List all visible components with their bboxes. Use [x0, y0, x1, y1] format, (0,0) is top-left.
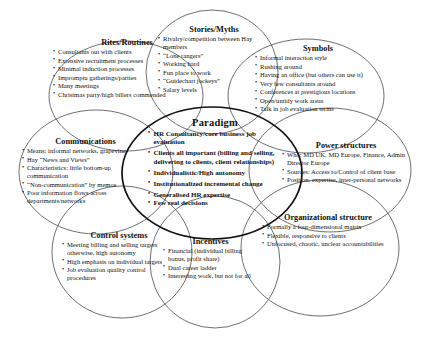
petal-title-stories-myths: Stories/Myths: [158, 25, 270, 34]
list-item: Characteristics: little bottom-up commun…: [22, 164, 149, 180]
petal-list-power-structures: Who: MD UK, MD Europe, Finance, Admin Di…: [282, 151, 410, 184]
list-item: Poor information flows across department…: [22, 189, 149, 205]
list-item: Means: informal networks, grapevine: [22, 147, 149, 155]
petal-list-communications: Means: informal networks, grapevine Hay …: [22, 147, 149, 205]
list-item: Rushing around: [255, 63, 381, 71]
petal-title-symbols: Symbols: [255, 44, 381, 53]
list-item: Institutionalized incremental change: [148, 180, 282, 188]
petal-title-power-structures: Power structures: [282, 141, 410, 150]
list-item: Informal interaction style: [255, 54, 381, 62]
petal-organizational-structure: Organizational structure Formally a four…: [262, 213, 394, 249]
list-item: High emphasis on individual targets: [62, 258, 176, 266]
petal-communications: Communications Means: informal networks,…: [22, 137, 149, 206]
petal-control-systems: Control systems Meeting billing and sell…: [62, 231, 176, 283]
list-item: Conferences at prestigious locations: [255, 88, 381, 96]
petal-power-structures: Power structures Who: MD UK, MD Europe, …: [282, 141, 410, 185]
list-item: “Lone rangers”: [158, 52, 270, 60]
list-item: Formally a four-dimensional matrix: [262, 223, 394, 231]
list-item: Talk in job evaluation terms: [255, 105, 381, 113]
list-item: Generalised HR expertise: [148, 191, 282, 199]
list-item: Rivalry/competition between Hay members: [158, 35, 270, 51]
list-item: Individualistic/High autonomy: [148, 169, 282, 177]
list-item: Salary levels: [158, 86, 270, 94]
center-list-paradigm: HR Consultancy/core business job evaluat…: [148, 130, 282, 208]
petal-list-symbols: Informal interaction style Rushing aroun…: [255, 54, 381, 113]
center-title-paradigm: Paradigm: [148, 117, 282, 129]
list-item: “Guidechart jockeys”: [158, 77, 270, 85]
petal-title-communications: Communications: [22, 137, 149, 146]
list-item: Open/untidy work areas: [255, 97, 381, 105]
petal-list-stories-myths: Rivalry/competition between Hay members …: [158, 35, 270, 93]
list-item: Few real decisions: [148, 199, 282, 207]
list-item: Working hard: [158, 60, 270, 68]
petal-symbols: Symbols Informal interaction style Rushi…: [255, 44, 381, 114]
center-paradigm: Paradigm HR Consultancy/core business jo…: [148, 117, 282, 208]
list-item: Having an office (but others can use it): [255, 71, 381, 79]
petal-title-organizational-structure: Organizational structure: [262, 213, 394, 222]
list-item: Unfocused, chaotic, unclear accountabili…: [262, 240, 394, 248]
list-item: Dual career ladder: [163, 264, 258, 272]
list-item: Who: MD UK, MD Europe, Finance, Admin Di…: [282, 151, 410, 167]
petal-title-incentives: Incentives: [163, 237, 258, 246]
petal-list-control-systems: Meeting billing and selling targets othe…: [62, 241, 176, 282]
list-item: Fun place to work: [158, 69, 270, 77]
list-item: Hay “News and Views”: [22, 156, 149, 164]
petal-incentives: Incentives Financial (individual billing…: [163, 237, 258, 281]
list-item: Flexible, responsive to clients: [262, 232, 394, 240]
list-item: Very few consultants around: [255, 80, 381, 88]
list-item: Interesting work, but not for all: [163, 272, 258, 280]
list-item: Financial (individual billing bonus, pro…: [163, 247, 258, 263]
list-item: Job evaluation quality control procedure…: [62, 266, 176, 282]
petal-list-incentives: Financial (individual billing bonus, pro…: [163, 247, 258, 280]
list-item: Sources: Access to/Control of client bas…: [282, 168, 410, 176]
petal-title-control-systems: Control systems: [62, 231, 176, 240]
list-item: HR Consultancy/core business job evaluat…: [148, 130, 282, 147]
petal-stories-myths: Stories/Myths Rivalry/competition betwee…: [158, 25, 270, 94]
list-item: Position, expertise, inter-personal netw…: [282, 176, 410, 184]
list-item: Clients all important (billing and selli…: [148, 149, 282, 166]
list-item: Meeting billing and selling targets othe…: [62, 241, 176, 257]
petal-list-organizational-structure: Formally a four-dimensional matrix Flexi…: [262, 223, 394, 248]
list-item: “Non-communication” by memos: [22, 181, 149, 189]
cultural-web-diagram: Rites/Routines Consultants out with clie…: [0, 0, 424, 348]
